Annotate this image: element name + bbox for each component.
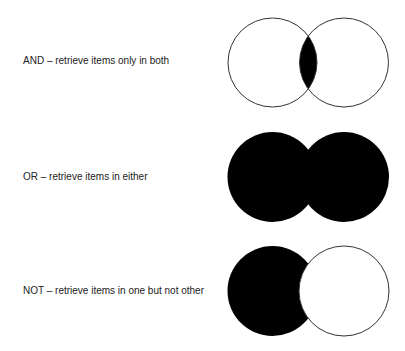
venn-diagrams [0,0,405,351]
or-venn-diagram [228,132,390,222]
not-venn-diagram [228,246,390,336]
and-venn-diagram [228,18,389,107]
or-right-circle [299,132,389,222]
not-right-circle [299,246,389,336]
